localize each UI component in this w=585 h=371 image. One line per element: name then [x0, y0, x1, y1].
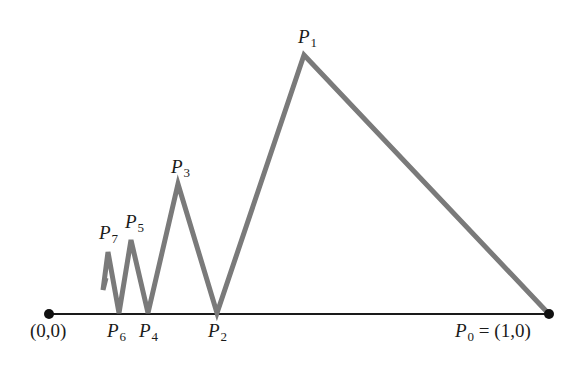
origin-label: (0,0): [30, 321, 66, 340]
p0-label: P0 = (1,0): [455, 321, 531, 343]
p3-label: P3: [171, 157, 190, 179]
zigzag-path: [103, 55, 548, 313]
p1-label: P1: [298, 27, 317, 49]
p4-label: P4: [139, 321, 158, 343]
origin-point: [44, 309, 54, 319]
p6-label: P6: [107, 321, 126, 343]
p2-label: P2: [208, 321, 227, 343]
p5-label: P5: [125, 212, 144, 234]
zigzag-diagram: [0, 0, 585, 371]
p7-label: P7: [99, 223, 118, 245]
unit-point: [544, 309, 554, 319]
